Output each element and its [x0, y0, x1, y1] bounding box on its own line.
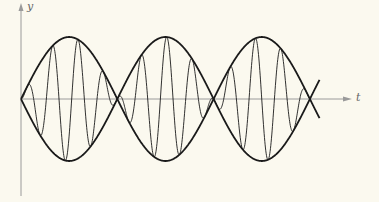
t-axis-arrow-icon	[343, 97, 352, 102]
beats-plot	[0, 0, 379, 202]
y-axis-arrow-icon	[19, 3, 24, 11]
y-axis-label: y	[27, 0, 33, 13]
t-axis-label: t	[356, 91, 360, 104]
